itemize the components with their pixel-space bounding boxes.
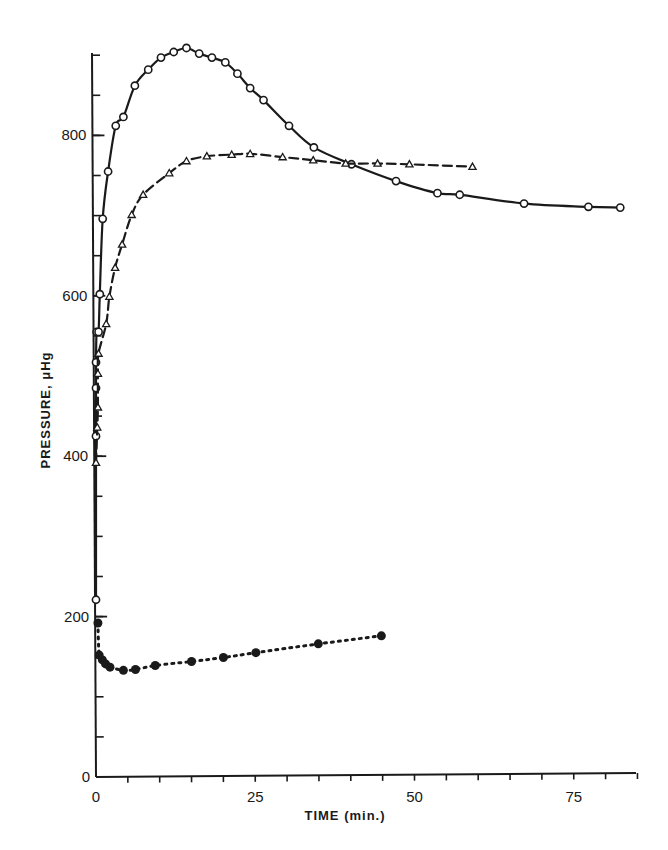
open-triangle-marker	[374, 160, 381, 166]
filled-circle-marker	[131, 665, 140, 674]
y-tick-label: 200	[64, 608, 89, 625]
open-triangle-marker	[112, 264, 119, 270]
open-circle-marker	[112, 122, 119, 129]
open-triangle-marker	[203, 153, 210, 159]
series-open-circle	[92, 44, 623, 603]
open-circle-marker	[95, 328, 102, 335]
open-triangle-marker	[247, 150, 254, 156]
open-circle-marker	[170, 48, 177, 55]
filled-circle-marker	[151, 661, 160, 670]
open-circle-marker	[456, 191, 463, 198]
series-line	[96, 48, 620, 600]
open-triangle-marker	[119, 241, 126, 247]
open-triangle-marker	[183, 157, 190, 163]
open-circle-marker	[285, 122, 292, 129]
filled-circle-marker	[377, 631, 386, 640]
open-circle-marker	[222, 59, 229, 66]
open-circle-marker	[260, 97, 267, 104]
x-tick-label: 0	[92, 788, 100, 805]
open-triangle-marker	[106, 293, 113, 299]
y-axis-title: PRESSURE, μHg	[38, 351, 53, 468]
series-line	[96, 154, 473, 463]
y-tick-label: 0	[82, 768, 90, 785]
series-open-triangle	[92, 150, 476, 465]
open-circle-marker	[520, 200, 527, 207]
x-axis-title: TIME (min.)	[304, 808, 385, 823]
filled-circle-marker	[106, 663, 115, 672]
open-circle-marker	[96, 291, 103, 298]
x-tick-label: 75	[565, 788, 582, 805]
open-circle-marker	[585, 203, 592, 210]
y-tick-label: 400	[63, 447, 88, 464]
x-tick-label: 25	[247, 788, 264, 805]
filled-circle-marker	[93, 619, 102, 628]
open-circle-marker	[434, 190, 441, 197]
series-line	[98, 623, 382, 670]
filled-circle-marker	[119, 666, 128, 675]
open-circle-marker	[120, 113, 127, 120]
open-circle-marker	[247, 84, 254, 91]
open-circle-marker	[208, 54, 215, 61]
open-triangle-marker	[228, 151, 235, 157]
open-circle-marker	[145, 66, 152, 73]
open-circle-marker	[196, 50, 203, 57]
x-tick-label: 50	[406, 788, 423, 805]
open-circle-marker	[92, 596, 99, 603]
x-axis-line	[96, 773, 636, 777]
open-circle-marker	[183, 44, 190, 51]
open-circle-marker	[310, 144, 317, 151]
chart-canvas: 02004006008000255075 TIME (min.) PRESSUR…	[0, 0, 668, 850]
open-triangle-marker	[279, 153, 286, 159]
open-circle-marker	[234, 70, 241, 77]
open-triangle-marker	[103, 320, 110, 326]
y-tick-label: 800	[61, 126, 86, 143]
open-circle-marker	[105, 168, 112, 175]
filled-circle-marker	[219, 653, 228, 662]
open-circle-marker	[157, 54, 164, 61]
y-tick-label: 600	[62, 287, 87, 304]
filled-circle-marker	[251, 648, 260, 657]
open-triangle-marker	[128, 211, 135, 217]
data-series	[92, 44, 623, 674]
open-circle-marker	[99, 215, 106, 222]
open-circle-marker	[131, 82, 138, 89]
open-triangle-marker	[406, 161, 413, 167]
filled-circle-marker	[187, 657, 196, 666]
open-triangle-marker	[310, 157, 317, 163]
series-filled-circle	[93, 619, 385, 675]
open-triangle-marker	[469, 163, 476, 169]
filled-circle-marker	[314, 639, 323, 648]
open-circle-marker	[392, 178, 399, 185]
open-circle-marker	[617, 204, 624, 211]
pressure-time-chart: 02004006008000255075 TIME (min.) PRESSUR…	[0, 0, 668, 850]
